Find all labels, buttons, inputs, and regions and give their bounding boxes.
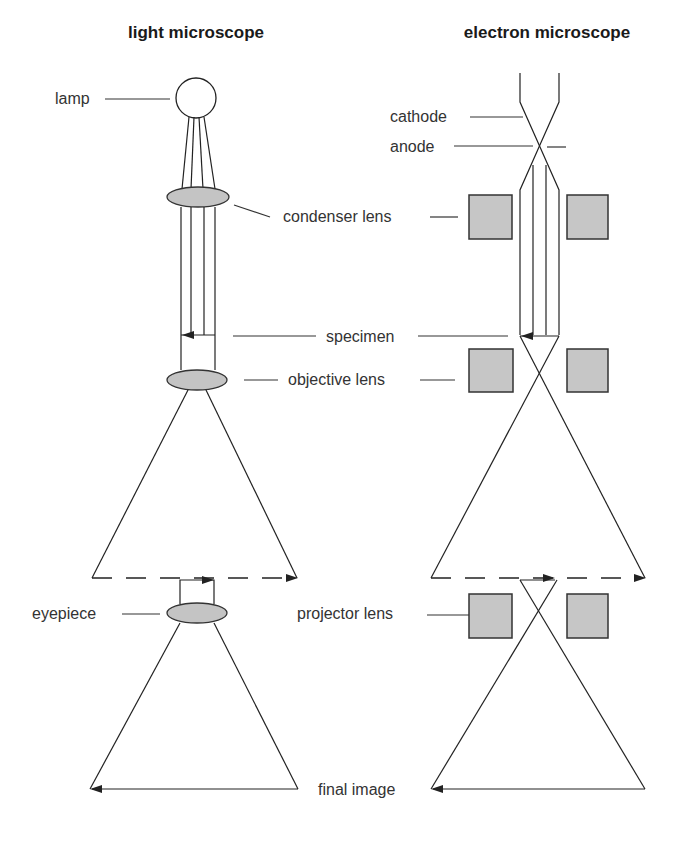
- label-eyepiece: eyepiece: [32, 605, 96, 622]
- electron-microscope-title: electron microscope: [464, 23, 630, 42]
- electron-objective-coil-right: [567, 349, 608, 392]
- label-objective-lens: objective lens: [288, 371, 385, 388]
- microscope-comparison-diagram: light microscope electron microscope: [0, 0, 676, 850]
- label-condenser-lens: condenser lens: [283, 208, 392, 225]
- electron-objective-coil-left: [469, 349, 513, 392]
- label-cathode: cathode: [390, 108, 447, 125]
- light-microscope-title: light microscope: [128, 23, 264, 42]
- electron-projector-coil-left: [469, 594, 512, 638]
- light-eyepiece-lens: [167, 603, 227, 623]
- electron-projector-coil-right: [567, 594, 608, 638]
- electron-condenser-coil-right: [567, 195, 608, 239]
- label-anode: anode: [390, 138, 435, 155]
- label-final-image: final image: [318, 781, 395, 798]
- labels: lamp cathode anode condenser lens specim…: [32, 90, 533, 798]
- label-lamp: lamp: [55, 90, 90, 107]
- electron-condenser-coil-left: [469, 195, 512, 239]
- label-specimen: specimen: [326, 328, 394, 345]
- light-objective-lens: [167, 370, 227, 390]
- electron-microscope: [431, 73, 646, 793]
- lamp-icon: [176, 78, 216, 118]
- light-microscope: [90, 78, 298, 793]
- light-condenser-lens: [167, 187, 229, 207]
- label-projector-lens: projector lens: [297, 605, 393, 622]
